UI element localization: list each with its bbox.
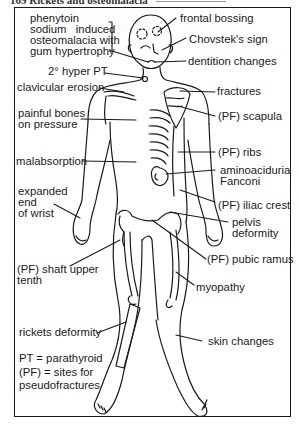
label-line: gum hypertrophy (30, 46, 120, 57)
label-2-hyper-pt: 2° hyper PT (48, 66, 108, 77)
label-pf-pubic-ramus: (PF) pubic ramus (207, 254, 294, 265)
label-rickets-deformity: rickets deformity (19, 327, 101, 338)
label-chvostek-sign: Chovstek's sign (189, 34, 268, 45)
label-fractures: fractures (217, 86, 261, 97)
label-pf-ribs: (PF) ribs (218, 147, 261, 158)
torso-drawing (88, 67, 209, 222)
label-line: on pressure (18, 119, 85, 130)
label-dentition-changes: dentition changes (188, 56, 277, 67)
legend-pf-definition-cont: pseudofractures (19, 379, 103, 393)
label-pf-iliac-crest: (PF) iliac crest (218, 200, 290, 211)
label-line: Fanconi (220, 176, 290, 187)
label-line: tenth (17, 275, 99, 286)
label-clavicular-erosion: clavicular erosion (17, 82, 104, 93)
label-skin-changes: skin changes (208, 336, 274, 347)
label-frontal-bossing: frontal bossing (180, 13, 253, 24)
label-line: of wrist (18, 208, 68, 219)
label-myopathy: myopathy (196, 282, 245, 293)
label-malabsorption: malabsorption (16, 156, 87, 167)
label-phenytoin: phenytoin sodium induced osteomalacia wi… (30, 13, 120, 57)
label-painful-bones: painful bones on pressure (18, 108, 85, 130)
label-pelvis-deformity: pelvis deformity (232, 217, 278, 239)
legend-pf-definition: (PF) = sites for (19, 366, 103, 380)
legend-pt-definition: PT = parathyroid (19, 352, 103, 366)
label-pf-shaft-upper-tenth: (PF) shaft upper tenth (17, 264, 99, 286)
right-arm-drawing (188, 124, 223, 246)
label-expanded-wrist: expanded end of wrist (18, 186, 68, 219)
figure-legend: PT = parathyroid (PF) = sites for pseudo… (19, 352, 103, 393)
head-drawing (128, 15, 172, 69)
label-line: deformity (232, 228, 278, 239)
label-pf-scapula: (PF) scapula (218, 111, 282, 122)
label-aminoaciduria: aminoaciduria Fanconi (220, 165, 290, 187)
